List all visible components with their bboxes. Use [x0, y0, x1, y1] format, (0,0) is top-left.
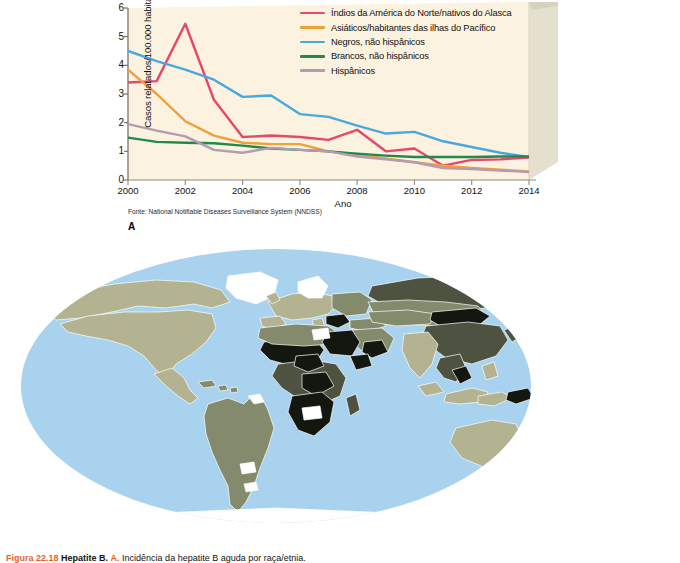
- legend-label: Brancos, não hispânicos: [331, 51, 429, 61]
- y-tick-label: 3: [104, 89, 124, 99]
- chart-area: 0 1 2 3 4 5 6 2000 2002 2004 2006 2008 2…: [128, 2, 558, 180]
- figure-caption: Figura 22.18 Hepatite B. A. Incidência d…: [6, 553, 680, 563]
- legend-color-swatch: [300, 55, 325, 58]
- legend-label: Asiáticos/habitantes das ilhas do Pacífi…: [331, 23, 495, 33]
- legend-color-swatch: [300, 69, 325, 72]
- legend-item: Hispânicos: [300, 64, 550, 78]
- series-line: [128, 124, 529, 172]
- figure-caption-body: Incidência da hepatite B aguda por raça/…: [122, 553, 306, 563]
- legend-color-swatch: [300, 26, 325, 29]
- legend-item: Índios da América do Norte/nativos do Al…: [300, 6, 550, 20]
- y-tick-label: 6: [104, 3, 124, 13]
- figure-number: Figura 22.18: [6, 553, 59, 563]
- y-tick-label: 1: [104, 146, 124, 156]
- panel-b-world-map: Prevalência da hepatite B Alta: ≥ 8%Inte…: [0, 246, 680, 546]
- legend-color-swatch: [300, 12, 325, 15]
- legend-label: Negros, não hispânicos: [331, 37, 425, 47]
- figure-panel-ref: A.: [111, 553, 120, 563]
- x-tick-label: 2008: [337, 186, 377, 196]
- panel-a-letter: A: [128, 221, 135, 232]
- y-tick-label: 0: [104, 175, 124, 185]
- legend-label: Índios da América do Norte/nativos do Al…: [331, 8, 511, 18]
- y-axis-label: Casos relatados/100.000 habitantes: [142, 0, 153, 134]
- legend-color-swatch: [300, 41, 325, 44]
- x-tick-label: 2000: [108, 186, 148, 196]
- panel-a-line-chart: 0 1 2 3 4 5 6 2000 2002 2004 2006 2008 2…: [0, 0, 680, 246]
- figure-title: Hepatite B.: [61, 553, 108, 563]
- x-tick-label: 2004: [223, 186, 263, 196]
- legend-label: Hispânicos: [331, 66, 375, 76]
- x-tick-label: 2014: [509, 186, 549, 196]
- world-map: [16, 246, 536, 531]
- x-tick-label: 2012: [452, 186, 492, 196]
- y-tick-label: 4: [104, 60, 124, 70]
- legend-item: Brancos, não hispânicos: [300, 49, 550, 63]
- chart-legend: Índios da América do Norte/nativos do Al…: [300, 6, 550, 78]
- x-tick-label: 2010: [394, 186, 434, 196]
- legend-item: Asiáticos/habitantes das ilhas do Pacífi…: [300, 20, 550, 34]
- legend-item: Negros, não hispânicos: [300, 35, 550, 49]
- source-note: Fonte: National Notifiable Diseases Surv…: [128, 208, 322, 215]
- y-tick-label: 2: [104, 118, 124, 128]
- y-tick-label: 5: [104, 32, 124, 42]
- x-tick-label: 2002: [165, 186, 205, 196]
- x-tick-label: 2006: [280, 186, 320, 196]
